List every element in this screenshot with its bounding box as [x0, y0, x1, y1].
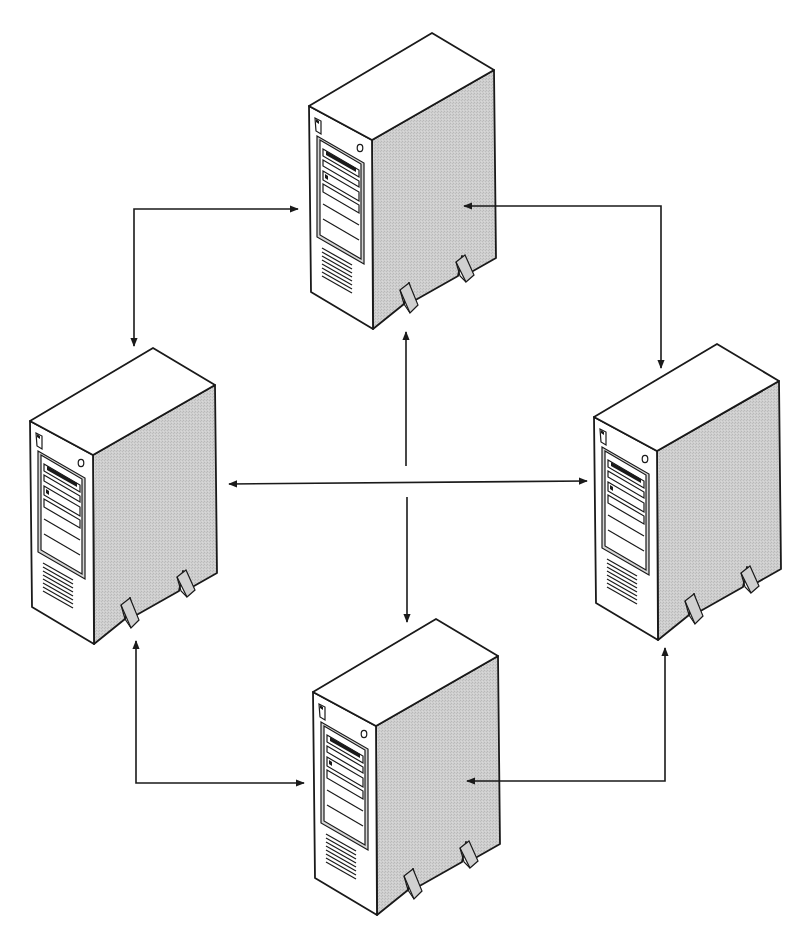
- tower-server-icon: [594, 344, 781, 640]
- tower-server-icon: [309, 33, 496, 329]
- diagram-canvas: [0, 0, 810, 945]
- server-bottom: [313, 619, 500, 915]
- tower-server-icon: [30, 348, 217, 644]
- server-right: [594, 344, 781, 640]
- tower-server-icon: [313, 619, 500, 915]
- connection-left-right: [229, 481, 587, 484]
- connection-left-bottom: [136, 641, 304, 783]
- network-diagram: Peer-to-peer server network: [0, 0, 810, 945]
- server-left: [30, 348, 217, 644]
- server-top: [309, 33, 496, 329]
- connection-top-left: [134, 209, 298, 346]
